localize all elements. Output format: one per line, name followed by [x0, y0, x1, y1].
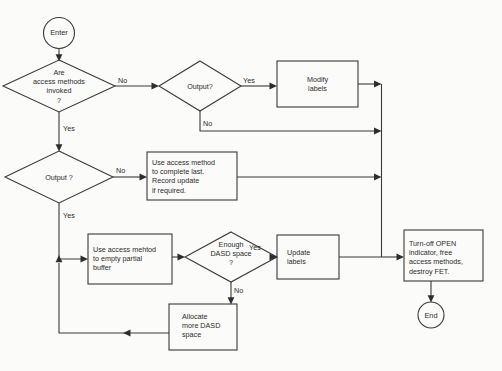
arrowhead-output-left-no [140, 174, 148, 181]
arrowhead-modify-to-bus [374, 81, 382, 88]
node-end-shape [418, 302, 444, 328]
edge-allocate-loop-back [59, 263, 169, 333]
node-dasd-space-shape [185, 232, 277, 282]
arrowhead-bus-to-turn-off [397, 254, 405, 261]
edge-output-left-yes-to-empty [59, 203, 83, 259]
node-access-methods-shape [3, 60, 115, 112]
arrowhead-output-left-yes [81, 256, 89, 263]
arrowhead-complete-to-bus [374, 174, 382, 181]
node-update-labels-shape [277, 235, 339, 279]
arrowhead-output-top-no [374, 128, 382, 135]
arrowhead-enter-to-access [56, 54, 63, 61]
node-allocate-dasd-shape [169, 304, 237, 350]
node-enter-shape [44, 18, 75, 49]
arrowhead-turn-off-to-end [428, 295, 435, 302]
arrowhead-allocate-loop [123, 330, 131, 337]
node-output-top-shape [159, 61, 241, 111]
arrowhead-dasd-no [228, 297, 235, 304]
node-empty-partial-shape [88, 234, 172, 284]
node-output-left-shape [5, 151, 113, 203]
edge-output-top-no-to-bus [200, 111, 377, 131]
flowchart-graphics [0, 0, 502, 371]
arrowhead-empty-to-dasd [178, 254, 186, 261]
flowchart-canvas: Enter Are access methods invoked ? Outpu… [0, 0, 502, 371]
arrowhead-access-yes [56, 144, 63, 151]
node-modify-labels-shape [277, 61, 358, 107]
arrowhead-output-top-yes [270, 83, 278, 90]
arrowhead-access-no [152, 83, 160, 90]
node-complete-last-shape [147, 152, 237, 200]
node-turn-off-open-shape [404, 230, 483, 281]
